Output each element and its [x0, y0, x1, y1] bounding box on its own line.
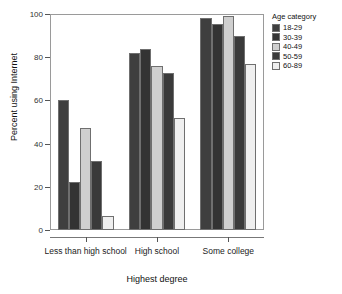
legend-item-label: 40-49	[283, 42, 302, 51]
legend-item-label: 18-29	[283, 23, 302, 32]
x-axis-tick	[157, 237, 158, 242]
legend-item-label: 30-39	[283, 33, 302, 42]
x-axis-title: Highest degree	[50, 274, 264, 284]
bar	[91, 161, 102, 230]
bar	[140, 49, 151, 230]
bar	[102, 216, 113, 230]
bar	[69, 182, 80, 230]
bar	[212, 24, 223, 230]
legend-swatch-icon	[272, 43, 280, 51]
bar	[80, 128, 91, 230]
legend-swatch-icon	[272, 24, 280, 32]
bar	[174, 118, 185, 230]
bar	[58, 100, 69, 230]
bar-chart-figure: 020406080100 Percent using Internet Less…	[0, 0, 342, 294]
bar	[234, 36, 245, 230]
bar	[245, 64, 256, 230]
legend-item: 40-49	[272, 42, 342, 51]
bar	[129, 53, 140, 230]
x-axis-tick-label: Some college	[184, 246, 272, 256]
legend-item: 60-89	[272, 61, 342, 70]
legend-item-label: 50-59	[283, 52, 302, 61]
legend-item: 18-29	[272, 23, 342, 32]
bar	[151, 66, 162, 230]
y-axis-title: Percent using Internet	[9, 0, 19, 197]
legend-item: 50-59	[272, 52, 342, 61]
legend: Age category 18-2930-3940-4950-5960-89	[272, 12, 342, 71]
x-axis-tick	[228, 237, 229, 242]
bar	[223, 16, 234, 230]
legend-swatch-icon	[272, 52, 280, 60]
x-axis-tick	[86, 237, 87, 242]
legend-title: Age category	[272, 12, 342, 21]
legend-items: 18-2930-3940-4950-5960-89	[272, 23, 342, 70]
legend-swatch-icon	[272, 33, 280, 41]
bar	[163, 73, 174, 230]
y-axis-title-wrap: Percent using Internet	[0, 0, 50, 244]
bar	[200, 18, 211, 230]
bar-group-container	[50, 14, 264, 230]
legend-swatch-icon	[272, 62, 280, 70]
legend-item: 30-39	[272, 33, 342, 42]
legend-item-label: 60-89	[283, 61, 302, 70]
